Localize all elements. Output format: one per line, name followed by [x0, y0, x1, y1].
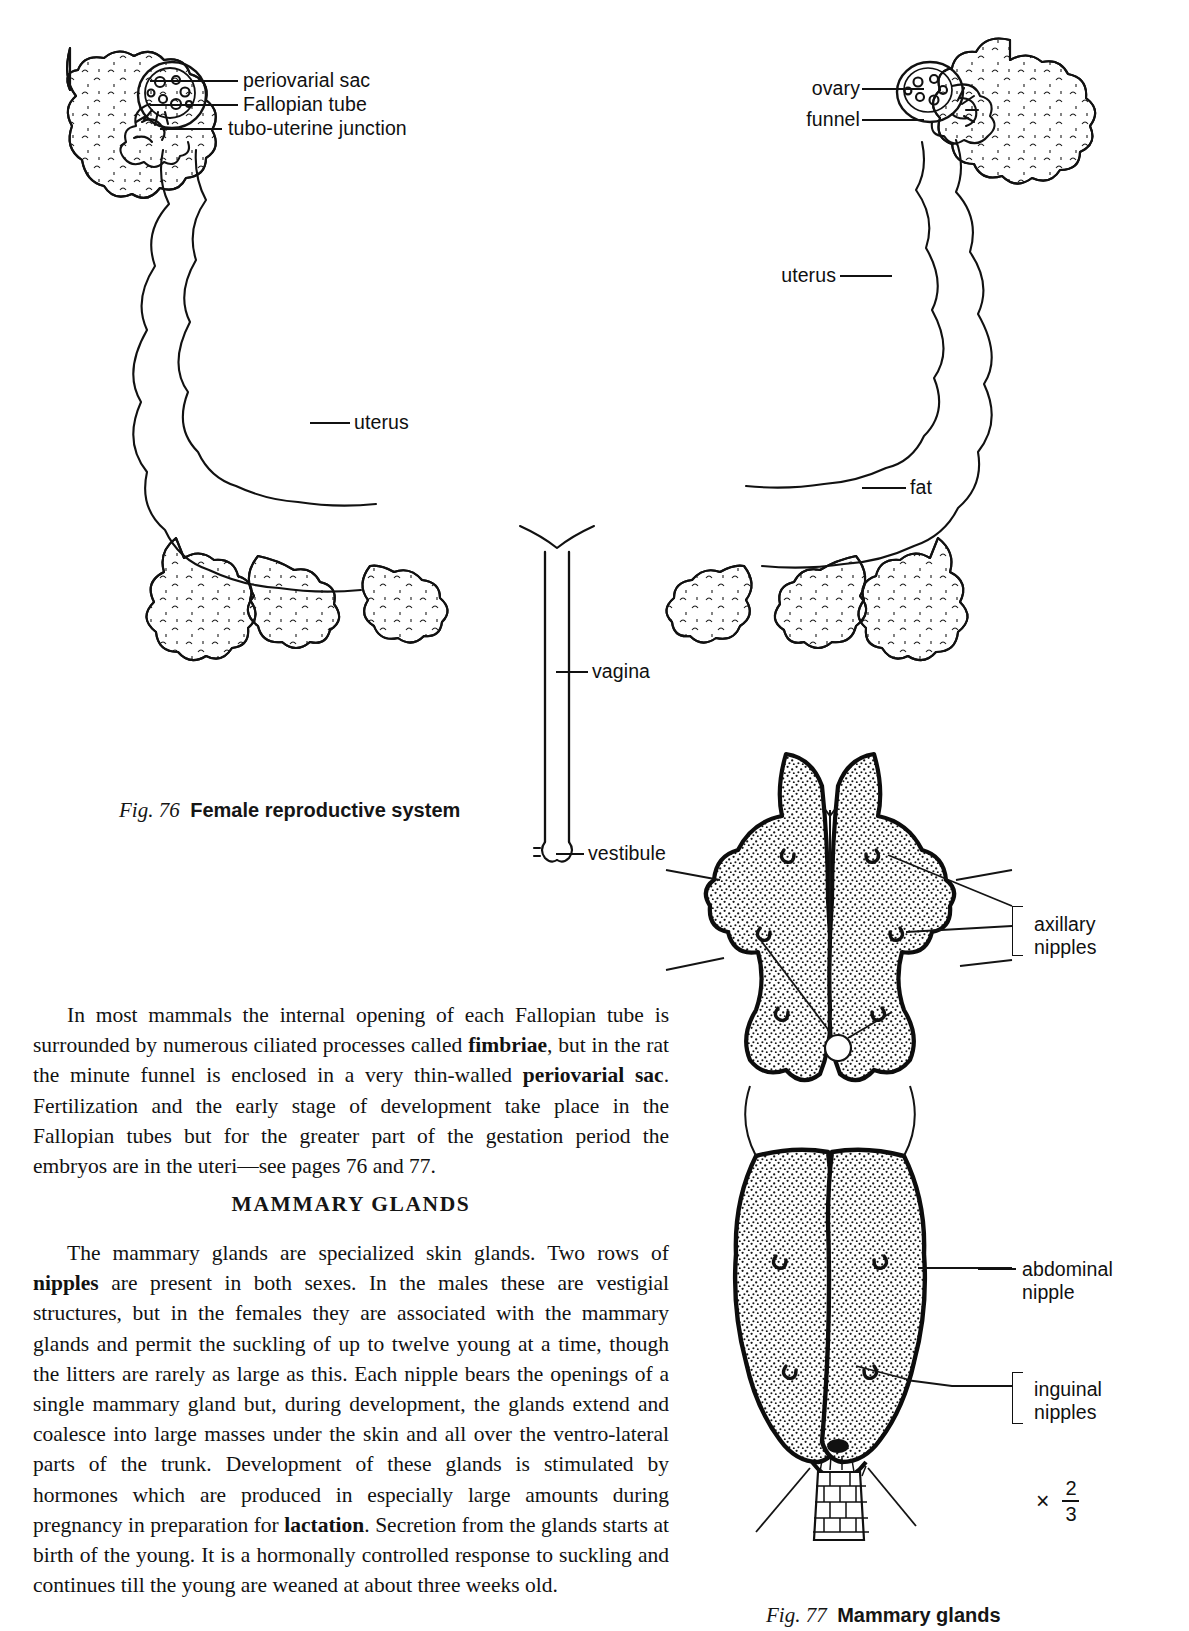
term-nipples: nipples: [33, 1271, 99, 1295]
label-funnel: funnel: [752, 108, 860, 131]
figure-76-caption: Fig. 76 Female reproductive system: [98, 773, 460, 848]
term-fimbriae: fimbriae: [468, 1033, 547, 1057]
leader-funnel: [862, 119, 924, 121]
label-fallopian-tube: Fallopian tube: [243, 93, 367, 116]
paragraph-1: In most mammals the internal opening of …: [33, 1000, 669, 1181]
p2-text-2: are present in both sexes. In the males …: [33, 1271, 669, 1537]
leader-fat: [862, 487, 906, 489]
leader-periovarial-sac: [150, 80, 238, 82]
magnification-fraction: 2 3: [1062, 1478, 1079, 1525]
leader-tubo-uterine-junction: [160, 128, 222, 130]
leader-uterus-right: [840, 275, 892, 277]
paragraph-fallopian-tube: In most mammals the internal opening of …: [33, 1000, 669, 1181]
p2-text-1: The mammary glands are specialized skin …: [67, 1241, 669, 1265]
label-ovary: ovary: [752, 77, 860, 100]
label-periovarial-sac: periovarial sac: [243, 69, 370, 92]
section-heading-mammary-glands: MAMMARY GLANDS: [33, 1192, 669, 1217]
fraction-numerator: 2: [1065, 1478, 1076, 1498]
figure-77-drawing: [660, 720, 1080, 1550]
figure-77-caption-prefix: Fig. 77: [766, 1603, 827, 1627]
label-axillary-nipples-line2: nipples: [1034, 936, 1097, 959]
figure-76-caption-prefix: Fig. 76: [119, 798, 180, 822]
figure-77-caption: Fig. 77 Mammary glands: [745, 1578, 1001, 1631]
leader-fallopian-tube: [150, 104, 238, 106]
label-axillary-nipples-line1: axillary: [1034, 913, 1095, 936]
label-vagina: vagina: [592, 660, 650, 683]
label-uterus-right: uterus: [724, 264, 836, 287]
caption-gap: [180, 798, 191, 822]
label-fat: fat: [910, 476, 932, 499]
label-vestibule: vestibule: [588, 842, 666, 865]
label-abdominal-nipple-line2: nipple: [1022, 1281, 1075, 1304]
fraction-denominator: 3: [1065, 1504, 1076, 1524]
brace-axillary-nipples: [1012, 906, 1023, 956]
label-inguinal-nipples-line2: nipples: [1034, 1401, 1097, 1424]
figure-77-caption-title: Mammary glands: [837, 1604, 1000, 1626]
leader-vestibule: [556, 853, 584, 855]
leader-uterus-left: [310, 422, 350, 424]
figure-76-caption-title: Female reproductive system: [190, 799, 460, 821]
caption-gap-2: [827, 1603, 838, 1627]
label-uterus-left: uterus: [354, 411, 409, 434]
paragraph-2: The mammary glands are specialized skin …: [33, 1238, 669, 1600]
label-inguinal-nipples-line1: inguinal: [1034, 1378, 1102, 1401]
magnification-scale: × 2 3: [1036, 1478, 1079, 1525]
label-abdominal-nipple-line1: abdominal: [1022, 1258, 1113, 1281]
leader-abdominal-nipple: [978, 1268, 1016, 1270]
label-tubo-uterine-junction: tubo-uterine junction: [228, 117, 407, 140]
term-lactation: lactation: [284, 1513, 364, 1537]
leader-vagina: [556, 671, 588, 673]
brace-inguinal-nipples: [1012, 1372, 1023, 1424]
paragraph-mammary-glands: The mammary glands are specialized skin …: [33, 1238, 669, 1600]
fraction-bar: [1062, 1500, 1079, 1502]
leader-ovary: [862, 88, 924, 90]
multiplication-sign: ×: [1036, 1488, 1049, 1515]
term-periovarial-sac: periovarial sac: [523, 1063, 664, 1087]
